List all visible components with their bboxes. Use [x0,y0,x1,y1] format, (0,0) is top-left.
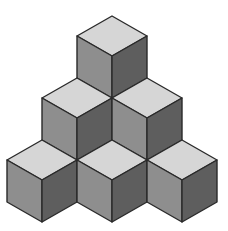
cube-pyramid-diagram [0,0,228,231]
